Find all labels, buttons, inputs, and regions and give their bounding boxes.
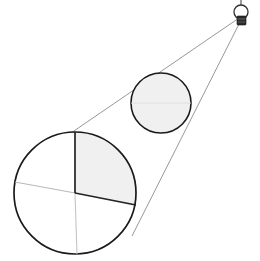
medium-circle-group <box>131 73 191 133</box>
lamp-base <box>237 16 246 25</box>
geometry-figure <box>0 0 260 261</box>
diagram-canvas <box>0 0 260 261</box>
